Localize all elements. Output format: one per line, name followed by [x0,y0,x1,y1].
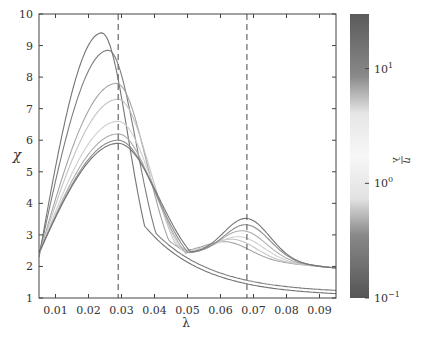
series-line [39,33,336,294]
x-tick-label: 0.09 [307,304,332,317]
series-line [39,121,336,268]
y-tick-label: 3 [26,229,33,242]
x-axis-label: λ [182,316,190,330]
series-line [39,50,336,290]
x-tick-label: 0.04 [142,304,167,317]
colorbar-label-denominator: λ [391,157,402,164]
chart: 0.010.020.030.040.050.060.070.080.09 123… [0,0,423,344]
y-tick-label: 6 [26,134,33,147]
colorbar-tick-label: 10−1 [374,290,400,305]
x-tick-label: 0.06 [208,304,233,317]
series-curves [39,33,336,294]
y-tick-label: 4 [26,197,33,210]
y-tick-label: 5 [26,166,33,179]
colorbar-tick-label: 101 [374,61,393,76]
y-tick-label: 10 [19,8,33,21]
colorbar-label-numerator: η [403,157,414,163]
colorbar-label: η λ [391,156,414,164]
colorbar: 10−1100101 η λ [350,14,414,305]
y-tick-label: 7 [26,103,33,116]
x-tick-label: 0.07 [241,304,266,317]
x-axis-ticks: 0.010.020.030.040.050.060.070.080.09 [43,14,332,317]
series-line [39,99,336,268]
series-line [39,83,336,268]
colorbar-gradient [350,14,369,298]
x-tick-label: 0.01 [43,304,68,317]
x-tick-label: 0.02 [76,304,101,317]
y-tick-label: 1 [26,292,33,305]
x-tick-label: 0.08 [274,304,299,317]
y-tick-label: 8 [26,71,33,84]
colorbar-tick-label: 100 [374,175,393,190]
y-tick-label: 2 [26,260,33,273]
x-tick-label: 0.03 [109,304,134,317]
y-axis-label: χ [12,147,23,163]
y-tick-label: 9 [26,40,33,53]
